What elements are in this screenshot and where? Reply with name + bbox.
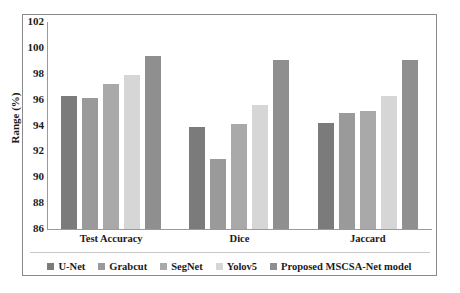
y-tick-label: 90	[4, 171, 44, 182]
bar-row	[175, 22, 303, 229]
legend-swatch-icon	[160, 263, 167, 270]
legend-label: Grabcut	[109, 261, 147, 272]
bar[interactable]	[103, 84, 119, 229]
bar[interactable]	[339, 113, 355, 229]
bar[interactable]	[360, 111, 376, 229]
bar[interactable]	[210, 159, 226, 229]
y-tick-label: 86	[4, 223, 44, 234]
legend-item[interactable]: Yolov5	[216, 261, 257, 272]
bar[interactable]	[318, 123, 334, 229]
x-axis-line	[47, 229, 432, 230]
legend-label: Proposed MSCSA-Net model	[281, 261, 411, 272]
legend-item[interactable]: U-Net	[47, 261, 85, 272]
legend-label: SegNet	[171, 261, 203, 272]
x-axis-category-label: Jaccard	[304, 233, 432, 244]
bar[interactable]	[61, 96, 77, 229]
y-axis-title: Range (%)	[9, 73, 21, 163]
bar[interactable]	[145, 56, 161, 229]
plot-area	[47, 22, 427, 229]
legend-swatch-icon	[98, 263, 105, 270]
legend-swatch-icon	[270, 263, 277, 270]
y-tick-label: 100	[4, 42, 44, 53]
bar[interactable]	[273, 60, 289, 229]
bar[interactable]	[381, 96, 397, 229]
y-axis-tick-labels: 10210098969492908886	[0, 0, 44, 293]
bar-group	[47, 22, 175, 229]
bar-group	[304, 22, 432, 229]
legend-swatch-icon	[47, 263, 54, 270]
x-axis-category-label: Test Accuracy	[47, 233, 175, 244]
bar[interactable]	[231, 124, 247, 229]
y-tick-label: 88	[4, 197, 44, 208]
legend-divider	[30, 252, 430, 253]
x-axis-category-label: Dice	[175, 233, 303, 244]
legend-label: U-Net	[58, 261, 85, 272]
bar[interactable]	[189, 127, 205, 229]
chart-figure: 10210098969492908886 Range (%) U-NetGrab…	[0, 0, 460, 293]
bar-group	[175, 22, 303, 229]
legend-label: Yolov5	[227, 261, 257, 272]
bar[interactable]	[124, 75, 140, 229]
legend-item[interactable]: Grabcut	[98, 261, 147, 272]
chart-legend: U-NetGrabcutSegNetYolov5Proposed MSCSA-N…	[22, 258, 437, 274]
y-tick-label: 102	[4, 16, 44, 27]
legend-swatch-icon	[216, 263, 223, 270]
bar[interactable]	[82, 98, 98, 229]
bar-row	[47, 22, 175, 229]
bar-row	[304, 22, 432, 229]
legend-item[interactable]: Proposed MSCSA-Net model	[270, 261, 411, 272]
legend-item[interactable]: SegNet	[160, 261, 203, 272]
bar[interactable]	[252, 105, 268, 229]
bar[interactable]	[402, 60, 418, 229]
